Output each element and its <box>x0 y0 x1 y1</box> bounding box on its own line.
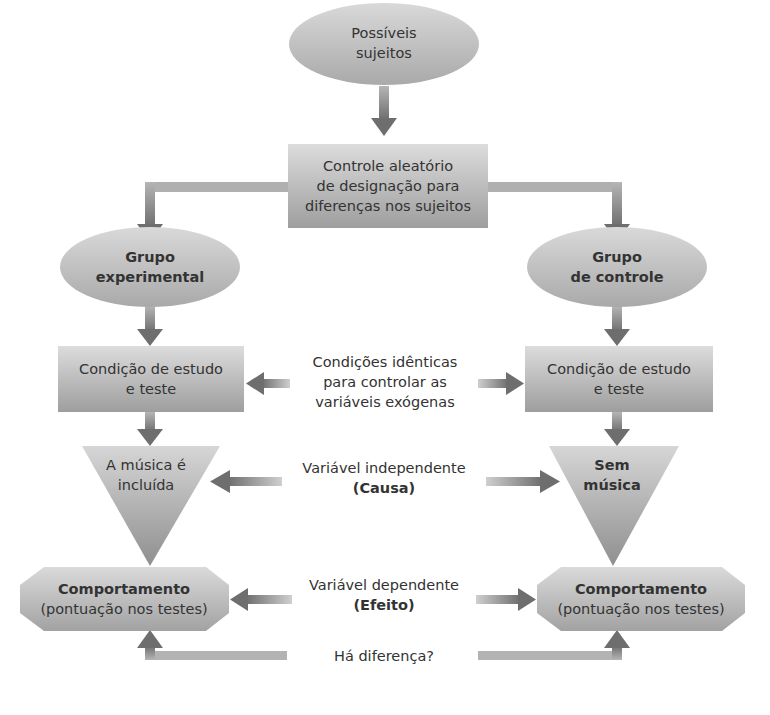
arrow-dependent-to-right-behavior <box>476 588 536 611</box>
arrow-identical-to-left-condition <box>246 372 290 395</box>
arrow-identical-to-right-condition <box>478 372 524 395</box>
node-experimental-group-label: Grupo experimental <box>96 247 204 287</box>
arrow-condition-to-no-music <box>604 412 630 446</box>
node-behavior-left-label: Comportamento (pontuação nos testes) <box>40 579 207 619</box>
annotation-dependent-variable: Variável dependente (Efeito) <box>309 575 459 615</box>
arrow-control-to-condition <box>604 306 630 346</box>
node-no-music-label: Sem música <box>583 455 640 495</box>
arrow-dependent-to-left-behavior <box>230 588 292 611</box>
node-behavior-right-label: Comportamento (pontuação nos testes) <box>557 579 724 619</box>
annotation-difference-question: Há diferença? <box>334 646 434 666</box>
arrow-subjects-to-assignment <box>371 86 397 136</box>
node-music-included-label: A música é incluída <box>106 455 186 495</box>
node-study-condition-right-label: Condição de estudo e teste <box>547 359 691 399</box>
annotation-independent-variable: Variável independente (Causa) <box>302 458 465 498</box>
arrow-experimental-to-condition <box>137 306 163 346</box>
arrow-independent-to-no-music <box>486 470 560 493</box>
arrow-condition-to-music <box>137 412 163 446</box>
annotation-identical-conditions: Condições idênticas para controlar as va… <box>313 352 458 412</box>
node-control-group-label: Grupo de controle <box>571 247 664 287</box>
arrow-independent-to-music <box>210 470 282 493</box>
node-study-condition-left-label: Condição de estudo e teste <box>79 359 223 399</box>
node-subjects-label: Possíveis sujeitos <box>351 23 416 63</box>
node-random-assignment-label: Controle aleatório de designação para di… <box>305 156 471 216</box>
